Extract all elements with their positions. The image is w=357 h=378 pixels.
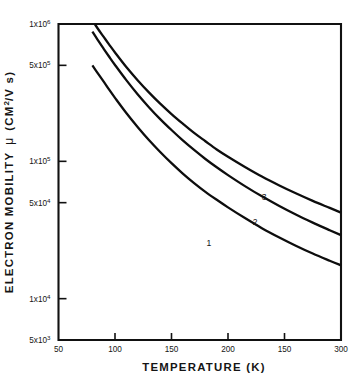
curve-label-3: 3 <box>262 192 267 202</box>
curve-label-2: 2 <box>253 217 258 227</box>
curve-1 <box>92 65 341 265</box>
x-tick-label-300: 300 <box>334 345 348 354</box>
y-tick-exponent: 4 <box>47 196 51 203</box>
frame-rect <box>59 24 342 340</box>
x-tick-label-250: 150 <box>278 345 292 354</box>
y-tick-exponent: 5 <box>47 155 51 162</box>
y-tick-mantissa: 5x10 <box>29 199 47 208</box>
data-curves <box>92 24 341 265</box>
y-axis-title-main: ELECTRON MOBILITY <box>3 152 15 293</box>
x-tick-label-100: 100 <box>108 345 122 354</box>
curve-2 <box>92 32 341 236</box>
y-tick-mantissa: 1x10 <box>29 295 47 304</box>
chart-figure: 1x1065x1051x1055x1041x1045x103 501001502… <box>0 0 357 378</box>
curve-label-1: 1 <box>206 238 211 248</box>
y-tick-exponent: 6 <box>47 18 51 25</box>
y-axis-title: ELECTRON MOBILITYμ(CM2/V s) <box>2 71 17 293</box>
y-tick-mantissa: 5x10 <box>29 336 47 345</box>
plot-frame <box>59 24 342 340</box>
x-axis-tick-labels: 50100150200150300 <box>54 345 348 354</box>
y-tick-mantissa: 5x10 <box>29 61 47 70</box>
y-tick-label-5000: 5x103 <box>29 334 51 346</box>
y-tick-label-50000: 5x104 <box>29 196 51 208</box>
x-tick-label-200: 200 <box>221 345 235 354</box>
y-axis-units-pre: (CM <box>3 106 15 131</box>
y-tick-label-1000000: 1x106 <box>29 18 51 30</box>
y-tick-mantissa: 1x10 <box>29 157 47 166</box>
y-tick-label-100000: 1x105 <box>29 155 51 167</box>
x-tick-label-150: 150 <box>165 345 179 354</box>
y-tick-exponent: 4 <box>47 292 51 299</box>
y-tick-label-10000: 1x104 <box>29 292 51 304</box>
y-tick-exponent: 3 <box>47 334 51 341</box>
y-tick-mantissa: 1x10 <box>29 20 47 29</box>
y-tick-label-500000: 5x105 <box>29 59 51 71</box>
mu-symbol: μ <box>2 138 16 145</box>
y-axis-tick-labels: 1x1065x1051x1055x1041x1045x103 <box>29 18 51 346</box>
y-axis-ticks <box>59 65 67 298</box>
curve-labels: 123 <box>206 192 266 248</box>
y-axis-units-post: /V s) <box>3 71 15 101</box>
x-axis-title: TEMPERATURE (K) <box>142 361 266 373</box>
x-tick-label-50: 50 <box>54 345 64 354</box>
y-tick-exponent: 5 <box>47 59 51 66</box>
electron-mobility-plot: 1x1065x1051x1055x1041x1045x103 501001502… <box>0 0 357 378</box>
